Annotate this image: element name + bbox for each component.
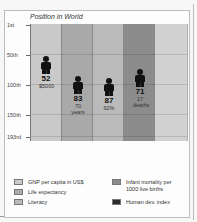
marker-gnp: 52 $5000 xyxy=(39,56,53,89)
value-unit: deaths xyxy=(133,102,147,108)
person-icon xyxy=(39,56,53,74)
legend-item-infant-mortality: Infant mortality per 1000 live births xyxy=(112,179,172,193)
rank-value: 87 xyxy=(102,97,116,105)
y-tick-193rd: 193rd xyxy=(7,134,27,140)
value-label: 92% xyxy=(102,105,116,111)
legend-item-life-expectancy: Life expectancy xyxy=(14,189,66,196)
value-label: $5000 xyxy=(39,83,53,89)
value-unit: years xyxy=(71,109,85,115)
y-tick-1st: 1st xyxy=(7,22,27,28)
legend-item-gnp: GNP per capita in US$ xyxy=(14,179,84,186)
legend-swatch xyxy=(14,199,23,205)
legend-item-human-dev-index: Human dev. index xyxy=(112,199,170,206)
marker-life-expectancy: 83 70 years xyxy=(71,76,85,115)
person-icon xyxy=(71,76,85,94)
rank-value: 83 xyxy=(71,95,85,103)
page-edge-divider xyxy=(193,4,194,220)
legend: GNP per capita in US$ Life expectancy Li… xyxy=(14,179,184,213)
gridline-150th xyxy=(31,114,187,115)
y-tick-150th: 150th xyxy=(7,112,27,118)
person-icon xyxy=(133,69,147,87)
y-tick-50th: 50th xyxy=(7,52,27,58)
person-icon xyxy=(102,78,116,96)
legend-swatch xyxy=(112,199,121,205)
legend-swatch xyxy=(14,189,23,195)
marker-literacy: 87 92% xyxy=(102,78,116,111)
plot-area: 52 $5000 83 70 years 87 92% 71 17 deaths xyxy=(30,24,187,141)
legend-swatch xyxy=(112,179,121,185)
marker-infant-mortality: 71 17 deaths xyxy=(133,69,147,108)
rank-value: 52 xyxy=(39,75,53,83)
column-human-dev-index xyxy=(155,24,188,141)
page: Position in World 1st 50th 100th 150th 1… xyxy=(0,0,197,222)
legend-swatch xyxy=(14,179,23,185)
legend-item-literacy: Literacy xyxy=(14,199,47,206)
chart-title: Position in World xyxy=(30,13,83,20)
y-tick-100th: 100th xyxy=(7,82,27,88)
gridline-50th xyxy=(31,54,187,55)
gridline-193rd xyxy=(31,136,187,137)
rank-value: 71 xyxy=(133,88,147,96)
